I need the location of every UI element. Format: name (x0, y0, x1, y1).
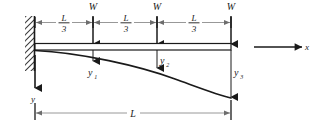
segment-label-1: L 3 (59, 13, 70, 35)
load-label-1: W (89, 1, 99, 12)
beam-undeformed (35, 44, 231, 51)
deflection-label-2-sub: 2 (166, 62, 169, 68)
segment-label-3: L 3 (189, 13, 200, 35)
cantilever-beam-diagram: L 3 L 3 L 3 W W W (0, 0, 318, 126)
deflection-marker-2: y 2 (157, 50, 169, 68)
x-axis-label: x (304, 42, 309, 52)
segment-3-numerator: L (190, 13, 196, 23)
segment-2-denominator: 3 (123, 24, 129, 34)
y-axis-label: y (30, 94, 35, 104)
segment-label-2: L 3 (121, 13, 132, 35)
deflection-label-3-base: y (233, 67, 239, 78)
deflection-label-1-sub: 1 (94, 74, 97, 80)
segment-3-denominator: 3 (191, 24, 197, 34)
deflected-beam-curve (35, 51, 231, 99)
segment-1-denominator: 3 (61, 24, 67, 34)
load-label-2: W (153, 1, 163, 12)
overall-dimension-L: L (35, 100, 231, 120)
x-axis: x (254, 42, 309, 52)
segment-2-numerator: L (122, 13, 128, 23)
diagram-canvas: L 3 L 3 L 3 W W W (0, 0, 318, 126)
deflection-label-3-sub: 3 (239, 74, 243, 80)
segment-1-numerator: L (60, 13, 66, 23)
load-label-3: W (227, 1, 237, 12)
deflection-marker-1: y 1 (87, 50, 97, 80)
deflection-label-1-base: y (87, 67, 93, 78)
deflection-marker-3: y 3 (231, 50, 243, 97)
overall-dimension-label: L (129, 108, 136, 119)
deflection-label-2-base: y (159, 55, 165, 66)
